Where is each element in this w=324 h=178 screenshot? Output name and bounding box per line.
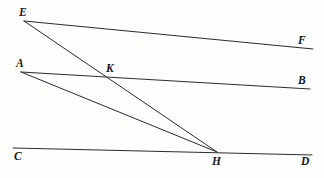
geometry-figure: E F A B K C H D xyxy=(0,0,324,178)
point-label-F: F xyxy=(298,35,306,47)
point-label-B: B xyxy=(298,75,306,87)
point-label-D: D xyxy=(301,156,309,168)
point-label-K: K xyxy=(106,63,114,75)
point-label-H: H xyxy=(212,156,221,168)
point-label-E: E xyxy=(19,7,27,19)
figure-canvas xyxy=(0,0,324,178)
point-label-A: A xyxy=(16,58,24,70)
point-label-C: C xyxy=(14,151,22,163)
